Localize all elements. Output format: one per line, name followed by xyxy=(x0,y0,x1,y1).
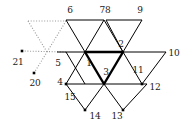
edge-10-down xyxy=(142,52,166,84)
label-12: 12 xyxy=(149,83,160,92)
label-5: 5 xyxy=(55,59,61,68)
node-4 xyxy=(65,83,68,86)
label-10: 10 xyxy=(168,49,179,58)
edge-9-right xyxy=(123,20,142,52)
label-1: 1 xyxy=(86,59,92,68)
label-20: 20 xyxy=(29,79,40,88)
node-20 xyxy=(33,72,36,75)
node-3 xyxy=(103,83,105,85)
label-9: 9 xyxy=(137,6,143,15)
label-2: 2 xyxy=(118,40,124,49)
label-4: 4 xyxy=(57,78,63,87)
edge-13-right xyxy=(123,84,147,110)
node-1 xyxy=(84,51,86,53)
lattice-figure: 6789210131152120415121413 xyxy=(0,0,189,126)
label-78: 78 xyxy=(99,6,110,15)
node-11 xyxy=(141,83,144,86)
label-13: 13 xyxy=(111,112,122,121)
edge-6-left xyxy=(66,20,85,52)
label-3: 3 xyxy=(103,68,109,77)
edge-6-right xyxy=(85,20,104,52)
dotted-20-up xyxy=(34,52,47,73)
dotted-left xyxy=(28,21,47,52)
label-11: 11 xyxy=(132,66,143,75)
node-14 xyxy=(84,109,87,112)
dotted-right xyxy=(47,21,66,52)
edge-13-left xyxy=(104,84,123,110)
edge-14-right xyxy=(85,84,104,110)
node-2 xyxy=(122,51,124,53)
label-6: 6 xyxy=(67,6,73,15)
label-21: 21 xyxy=(12,58,23,67)
label-14: 14 xyxy=(89,112,100,121)
node-21 xyxy=(21,50,24,53)
lattice-diagram xyxy=(0,0,189,126)
label-15: 15 xyxy=(64,93,75,102)
